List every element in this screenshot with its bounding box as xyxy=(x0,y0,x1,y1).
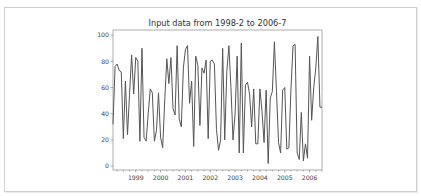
y-axis: 020406080100 xyxy=(97,31,113,169)
x-tick-label: 2003 xyxy=(227,174,243,181)
y-tick-label: 40 xyxy=(101,110,109,117)
y-tick-label: 20 xyxy=(101,136,109,143)
x-tick-label: 2002 xyxy=(202,174,218,181)
x-tick-label: 2004 xyxy=(252,174,268,181)
data-series-line xyxy=(113,37,322,164)
x-tick-label: 2000 xyxy=(153,174,169,181)
y-tick-label: 80 xyxy=(101,58,109,65)
x-tick-label: 1999 xyxy=(128,174,144,181)
line-chart: Input data from 1998-2 to 2006-7 0204060… xyxy=(0,0,421,196)
x-tick-label: 2001 xyxy=(178,174,194,181)
x-axis: 19992000200120022003200420052006 xyxy=(117,170,322,181)
y-tick-label: 0 xyxy=(105,162,109,169)
chart-title: Input data from 1998-2 to 2006-7 xyxy=(149,18,287,28)
y-tick-label: 60 xyxy=(101,84,109,91)
y-tick-label: 100 xyxy=(97,31,109,38)
x-tick-label: 2005 xyxy=(277,174,293,181)
x-tick-label: 2006 xyxy=(302,174,318,181)
